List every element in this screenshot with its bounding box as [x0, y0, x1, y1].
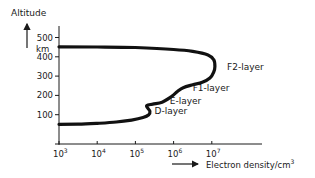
layer-label-d-layer: D-layer — [155, 106, 188, 116]
y-tick-label: 300 — [37, 71, 53, 81]
y-tick-label: 500 — [37, 33, 53, 43]
x-tick-label: 103 — [53, 147, 68, 159]
x-tick-label: 106 — [168, 147, 183, 159]
x-axis-label: Electron density/cm3 — [206, 158, 295, 170]
x-tick-label: 107 — [206, 147, 221, 159]
electron-density-curve — [59, 47, 215, 125]
y-tick-label: 200 — [37, 90, 53, 100]
y-tick-label: 400 — [37, 52, 53, 62]
ionosphere-chart: Altitude km 100200300400500 103104105106… — [0, 0, 315, 178]
layer-label-e-layer: E-layer — [170, 96, 202, 106]
y-tick-label: 100 — [37, 110, 53, 120]
x-tick-label: 105 — [129, 147, 144, 159]
layer-label-f2-layer: F2-layer — [227, 62, 264, 72]
layer-label-f1-layer: F1-layer — [193, 83, 230, 93]
layer-annotations: F2-layerF1-layerE-layerD-layer — [155, 62, 265, 116]
y-axis-label: Altitude — [11, 8, 47, 18]
x-tick-label: 104 — [91, 147, 106, 159]
x-axis-label-superscript: 3 — [291, 158, 295, 165]
